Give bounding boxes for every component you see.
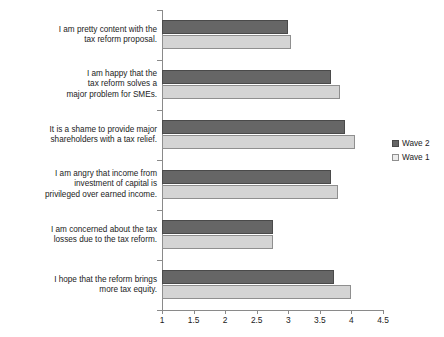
y-tick: [157, 10, 162, 11]
bar-wave-2[interactable]: [162, 220, 273, 234]
y-tick: [157, 210, 162, 211]
legend-item-wave-1[interactable]: Wave 1: [392, 153, 444, 162]
x-tick-label: 4: [336, 315, 366, 325]
bar-group: [162, 220, 383, 250]
bar-wave-2[interactable]: [162, 70, 331, 84]
bar-wave-1[interactable]: [162, 235, 273, 249]
chart-category-row: I hope that the reform brings more tax e…: [0, 260, 444, 310]
legend-item-wave-2[interactable]: Wave 2: [392, 139, 444, 148]
x-tick: [162, 310, 163, 314]
x-tick-label: 3: [273, 315, 303, 325]
category-label: I am happy that the tax reform solves a …: [7, 69, 157, 100]
y-tick: [157, 260, 162, 261]
y-tick: [157, 160, 162, 161]
category-label: It is a shame to provide major sharehold…: [7, 125, 157, 146]
x-tick-label: 4.5: [368, 315, 398, 325]
chart-category-row: I am angry that income from investment o…: [0, 160, 444, 210]
chart-category-row: I am happy that the tax reform solves a …: [0, 60, 444, 110]
x-tick-label: 2.5: [242, 315, 272, 325]
category-label: I am angry that income from investment o…: [7, 169, 157, 200]
bar-group: [162, 70, 383, 100]
category-label: I hope that the reform brings more tax e…: [7, 275, 157, 296]
bar-group: [162, 270, 383, 300]
x-tick: [194, 310, 195, 314]
bar-chart: I am pretty content with the tax reform …: [0, 0, 444, 337]
x-axis-line: [162, 310, 383, 311]
bar-wave-2[interactable]: [162, 270, 334, 284]
x-tick: [225, 310, 226, 314]
x-tick-label: 2: [210, 315, 240, 325]
x-tick: [320, 310, 321, 314]
y-tick: [157, 310, 162, 311]
x-tick-label: 3.5: [305, 315, 335, 325]
x-tick: [383, 310, 384, 314]
y-tick: [157, 60, 162, 61]
bar-group: [162, 170, 383, 200]
chart-category-row: It is a shame to provide major sharehold…: [0, 110, 444, 160]
bar-group: [162, 120, 383, 150]
category-label: I am concerned about the tax losses due …: [7, 225, 157, 246]
legend-swatch-wave-1: [392, 154, 399, 161]
legend-label-wave-1: Wave 1: [402, 153, 429, 162]
y-tick: [157, 110, 162, 111]
legend-label-wave-2: Wave 2: [402, 139, 429, 148]
bar-wave-2[interactable]: [162, 170, 331, 184]
bar-wave-1[interactable]: [162, 285, 351, 299]
category-label: I am pretty content with the tax reform …: [7, 25, 157, 46]
chart-legend: Wave 2 Wave 1: [392, 139, 444, 167]
legend-swatch-wave-2: [392, 140, 399, 147]
x-tick: [257, 310, 258, 314]
bar-wave-1[interactable]: [162, 85, 340, 99]
x-tick: [351, 310, 352, 314]
chart-category-row: I am concerned about the tax losses due …: [0, 210, 444, 260]
bar-wave-1[interactable]: [162, 135, 355, 149]
x-tick-label: 1: [147, 315, 177, 325]
x-tick: [288, 310, 289, 314]
bar-group: [162, 20, 383, 50]
chart-category-row: I am pretty content with the tax reform …: [0, 10, 444, 60]
bar-wave-1[interactable]: [162, 185, 338, 199]
category-rows: I am pretty content with the tax reform …: [0, 10, 444, 310]
x-tick-label: 1.5: [179, 315, 209, 325]
bar-wave-1[interactable]: [162, 35, 291, 49]
bar-wave-2[interactable]: [162, 120, 345, 134]
bar-wave-2[interactable]: [162, 20, 288, 34]
